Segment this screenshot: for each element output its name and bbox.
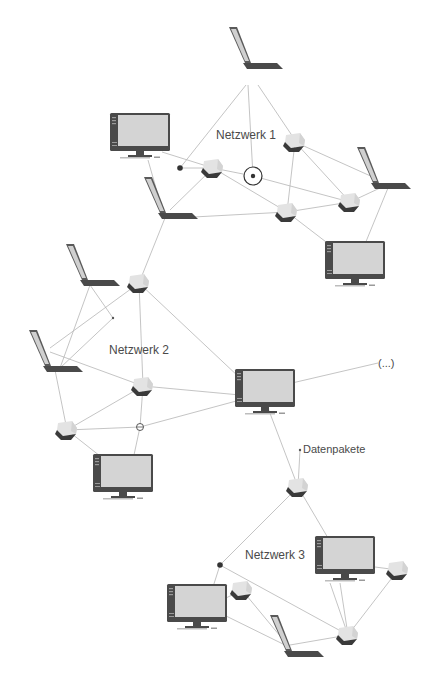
router-center-dot-icon bbox=[251, 174, 255, 178]
switch-cube-icon bbox=[131, 377, 153, 396]
switch-cube-icon bbox=[201, 159, 223, 178]
monitor-icon bbox=[110, 113, 170, 159]
network-3-label: Netzwerk 3 bbox=[245, 548, 305, 562]
monitor-icon bbox=[315, 536, 375, 582]
node-dot-icon bbox=[177, 165, 183, 171]
network-2-label: Netzwerk 2 bbox=[109, 343, 169, 357]
node-dot-icon bbox=[217, 562, 223, 568]
switch-cube-icon bbox=[275, 203, 297, 222]
laptop-icon bbox=[357, 147, 411, 189]
laptop-icon bbox=[229, 27, 283, 69]
network-2 bbox=[29, 244, 295, 500]
network-1 bbox=[110, 27, 411, 287]
switch-cube-icon bbox=[386, 561, 408, 580]
network-diagram bbox=[0, 0, 442, 698]
more-networks-label: (...) bbox=[378, 357, 395, 369]
network-1-label: Netzwerk 1 bbox=[216, 128, 276, 142]
switch-cube-icon bbox=[230, 581, 252, 600]
switch-cube-icon bbox=[55, 421, 77, 440]
switch-cube-icon bbox=[286, 478, 308, 497]
monitor-icon bbox=[325, 241, 385, 287]
monitor-icon bbox=[93, 454, 153, 500]
switch-cube-icon bbox=[127, 274, 149, 293]
data-packets-label: Datenpakete bbox=[303, 443, 365, 455]
laptop-icon bbox=[144, 177, 198, 219]
switch-cube-icon bbox=[338, 193, 360, 212]
switch-cube-icon bbox=[336, 626, 358, 645]
monitor-icon bbox=[167, 584, 227, 630]
monitor-icon bbox=[235, 369, 295, 415]
laptop-icon bbox=[29, 330, 83, 372]
laptop-icon bbox=[270, 615, 324, 657]
node-dot-icon bbox=[112, 317, 114, 319]
laptop-icon bbox=[66, 244, 120, 286]
packet-dot-icon bbox=[299, 449, 301, 451]
